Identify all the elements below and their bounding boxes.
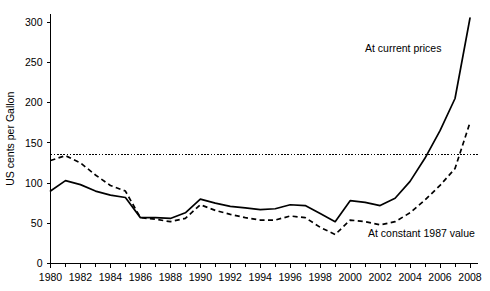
x-tick-label: 1996: [279, 271, 303, 283]
series-at-constant-1987-value: [51, 123, 471, 235]
y-axis-ticks: 050100150200250300: [25, 16, 51, 269]
x-tick-label: 2008: [458, 271, 482, 283]
y-tick-label: 0: [37, 257, 43, 269]
y-tick-label: 250: [25, 56, 43, 68]
x-tick-label: 1982: [69, 271, 93, 283]
x-tick-label: 1984: [99, 271, 123, 283]
x-tick-label: 2002: [368, 271, 392, 283]
y-tick-label: 150: [25, 137, 43, 149]
x-tick-label: 1988: [159, 271, 183, 283]
x-tick-label: 2006: [428, 271, 452, 283]
x-tick-label: 1992: [219, 271, 243, 283]
annotation-at-constant-1987-value: At constant 1987 value: [368, 227, 475, 239]
x-tick-label: 1980: [39, 271, 63, 283]
chart-container: 050100150200250300 198019821984198619881…: [0, 0, 490, 291]
x-tick-label: 1994: [249, 271, 273, 283]
line-chart: 050100150200250300 198019821984198619881…: [0, 0, 490, 291]
y-tick-label: 300: [25, 16, 43, 28]
annotation-at-current-prices: At current prices: [365, 42, 441, 54]
x-tick-label: 2000: [338, 271, 362, 283]
x-tick-label: 1990: [189, 271, 213, 283]
y-axis-title: US cents per Gallon: [4, 92, 16, 186]
x-tick-label: 1986: [129, 271, 153, 283]
y-tick-label: 50: [31, 217, 43, 229]
x-axis-ticks: 1980198219841986198819901992199419961998…: [39, 264, 482, 283]
x-tick-label: 1998: [308, 271, 332, 283]
y-tick-label: 200: [25, 96, 43, 108]
x-tick-label: 2004: [398, 271, 422, 283]
y-tick-label: 100: [25, 177, 43, 189]
